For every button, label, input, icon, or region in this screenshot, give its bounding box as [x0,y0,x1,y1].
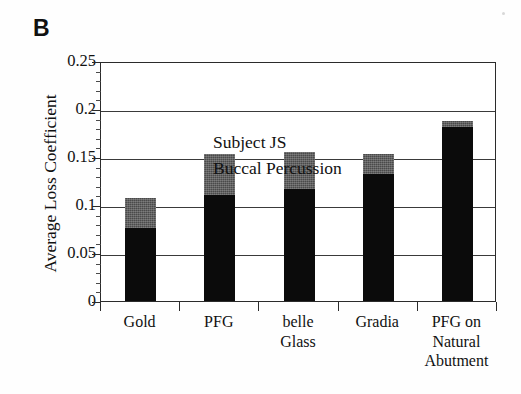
x-tick-mark [417,302,418,311]
y-tick-mark-0.2 [92,110,101,111]
y-tick-mark-0.15 [92,158,101,159]
x-tick-label-line: Abutment [404,351,508,371]
y-minor-tick [96,177,101,178]
x-tick-label-pfg-on-natural-abutment: PFG onNaturalAbutment [404,312,508,371]
plot-area: Subject JSBuccal Percussion [100,62,496,302]
bar-gold [125,61,156,301]
x-tick-mark [100,302,101,311]
y-minor-tick [96,120,101,121]
x-tick-label-line: Natural [404,332,508,352]
y-minor-tick [96,91,101,92]
bar-segment-lower [125,228,156,301]
y-minor-tick [96,129,101,130]
y-tick-label-0.1: 0.1 [50,197,96,214]
y-minor-tick [96,168,101,169]
annotation-line-2: Buccal Percussion [213,155,342,181]
y-minor-tick [96,273,101,274]
x-tick-mark [258,302,259,311]
x-tick-mark [338,302,339,311]
y-minor-tick [96,235,101,236]
scan-speck [502,12,505,15]
y-tick-label-0.2: 0.2 [50,101,96,118]
bar-pfg [204,61,235,301]
y-tick-label-0.05: 0.05 [50,245,96,262]
y-minor-tick [96,292,101,293]
bar-belle-glass [284,61,315,301]
y-minor-tick [96,264,101,265]
x-tick-label-line: Glass [246,332,350,352]
bar-pfg-on-natural-abutment [442,61,473,301]
y-minor-tick [96,148,101,149]
y-minor-tick [96,72,101,73]
y-minor-tick [96,187,101,188]
x-tick-mark [496,302,497,311]
bar-segment-upper [125,198,156,228]
y-tick-label-0: 0 [50,293,96,310]
y-minor-tick [96,225,101,226]
bar-segment-lower [204,195,235,301]
figure-panel-b: B Average Loss Coefficient 0.250.20.150.… [0,0,521,394]
y-tick-mark-0.05 [92,254,101,255]
y-minor-tick [96,244,101,245]
y-minor-tick [96,81,101,82]
bar-series [101,63,495,301]
bar-gradia [363,61,394,301]
y-tick-label-0.15: 0.15 [50,149,96,166]
bar-segment-upper [363,154,394,174]
y-minor-tick [96,139,101,140]
annotation-line-1: Subject JS [213,129,342,155]
y-axis-tick-labels: 0.250.20.150.10.050 [44,0,96,394]
x-tick-label-line: PFG on [404,312,508,332]
x-tick-mark [179,302,180,311]
y-tick-mark-0.25 [92,62,101,63]
y-tick-mark-0.1 [92,206,101,207]
plot-annotation: Subject JSBuccal Percussion [213,129,342,181]
bar-segment-upper [442,121,473,128]
bar-segment-lower [442,127,473,301]
y-minor-tick [96,283,101,284]
y-tick-label-0.25: 0.25 [50,53,96,70]
bar-segment-lower [363,174,394,301]
y-minor-tick [96,216,101,217]
y-minor-tick [96,100,101,101]
bar-segment-lower [284,189,315,301]
y-minor-tick [96,196,101,197]
